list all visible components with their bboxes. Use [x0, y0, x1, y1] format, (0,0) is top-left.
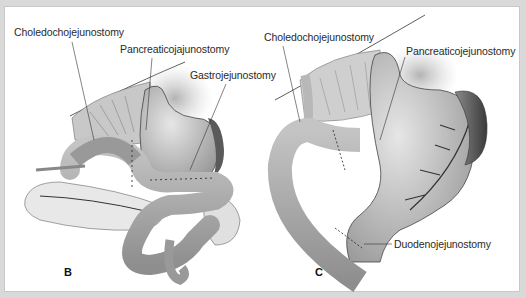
- panel-letter-b: B: [64, 266, 72, 278]
- label-choledochojejunostomy-c: Choledochojejunostomy: [264, 31, 374, 43]
- label-duodenojejunostomy-c: Duodenojejunostomy: [394, 238, 491, 250]
- panel-letter-c: C: [315, 266, 323, 278]
- label-pancreaticojejunostomy-c: Pancreaticojejunostomy: [406, 45, 515, 57]
- label-gastrojejunostomy-b: Gastrojejunostomy: [190, 69, 276, 81]
- label-pancreaticojejunostomy-b: Pancreaticojajunostomy: [120, 43, 229, 55]
- label-choledochojejunostomy-b: Choledochojejunostomy: [14, 26, 124, 38]
